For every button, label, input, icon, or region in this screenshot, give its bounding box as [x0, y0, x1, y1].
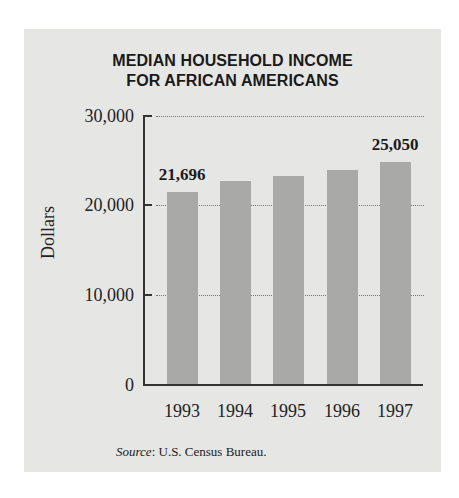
title-line-2: FOR AFRICAN AMERICANS [24, 71, 441, 91]
y-axis [143, 116, 145, 386]
bar-1995 [273, 176, 304, 385]
title-line-1: MEDIAN HOUSEHOLD INCOME [24, 51, 441, 71]
bar-1993 [167, 192, 198, 385]
data-label-1997: 25,050 [355, 135, 435, 155]
x-axis [143, 384, 423, 386]
xtick-1994: 1994 [205, 401, 265, 422]
xtick-1997: 1997 [365, 401, 425, 422]
xtick-1996: 1996 [312, 401, 372, 422]
bar-1994 [220, 181, 251, 385]
source-text: : U.S. Census Bureau. [152, 444, 267, 459]
chart-panel: MEDIAN HOUSEHOLD INCOME FOR AFRICAN AMER… [24, 29, 441, 472]
ytick-30000: 30,000 [44, 107, 134, 125]
bar-1997 [380, 162, 411, 385]
xtick-1993: 1993 [152, 401, 212, 422]
bar-1996 [327, 170, 358, 385]
gridline-30000 [156, 116, 424, 117]
source-label: Source [116, 444, 152, 459]
data-label-1993: 21,696 [142, 165, 222, 185]
source-note: Source: U.S. Census Bureau. [116, 444, 266, 460]
y-axis-label: Dollars [38, 206, 59, 259]
ytick-0: 0 [44, 376, 134, 394]
chart-title: MEDIAN HOUSEHOLD INCOME FOR AFRICAN AMER… [24, 51, 441, 91]
ytick-10000: 10,000 [44, 286, 134, 304]
xtick-1995: 1995 [258, 401, 318, 422]
